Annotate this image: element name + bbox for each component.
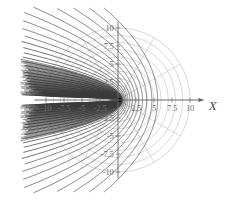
- y-tick-label: -7.5: [101, 150, 114, 159]
- polar-plot-figure: -10-7.5-5-2.52.557.510107.552.5-2.5-5-7.…: [0, 0, 225, 201]
- x-axis-arrowhead: [198, 98, 203, 103]
- y-tick-label: -10: [103, 168, 114, 177]
- x-tick-label: -10: [41, 104, 52, 113]
- x-axis-label: X: [209, 99, 217, 112]
- y-tick-label: 7.5: [103, 42, 113, 51]
- axes: [34, 22, 203, 179]
- x-tick-label: 2.5: [131, 104, 141, 113]
- y-tick-label: -5: [107, 132, 114, 141]
- x-tick-label: -2.5: [94, 104, 107, 113]
- y-tick-label: 2.5: [103, 78, 113, 87]
- x-tick-label: -7.5: [58, 104, 71, 113]
- x-tick-label: -5: [79, 104, 86, 113]
- x-tick-label: 10: [186, 104, 194, 113]
- y-tick-label: -2.5: [101, 114, 114, 123]
- x-tick-label: 5: [152, 104, 156, 113]
- y-tick-label: 5: [109, 60, 113, 69]
- x-tick-label: 7.5: [167, 104, 177, 113]
- y-tick-label: 10: [105, 24, 113, 33]
